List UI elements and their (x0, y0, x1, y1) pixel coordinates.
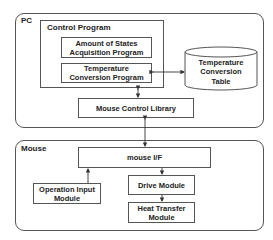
control-program-label: Control Program (47, 23, 111, 32)
operation-input-module: Operation Input Module (33, 183, 101, 204)
temperature-conversion-table: Temperature Conversion Table (192, 58, 250, 86)
amount-of-states-acquisition-program: Amount of States Acquisition Program (61, 37, 152, 58)
drive-module: Drive Module (128, 175, 195, 195)
heat-transfer-module: Heat Transfer Module (128, 202, 195, 223)
mouse-interface: mouse I/F (78, 147, 211, 168)
mouse-control-library: Mouse Control Library (78, 98, 194, 118)
temperature-conversion-program: Temperature Conversion Program (61, 63, 152, 83)
pc-label: PC (21, 16, 32, 25)
mouse-label: Mouse (21, 144, 46, 153)
